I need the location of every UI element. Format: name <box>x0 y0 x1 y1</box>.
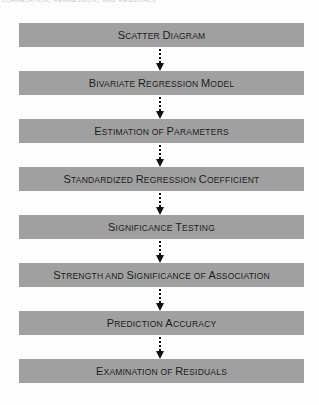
step-label: STANDARDIZED REGRESSION COEFFICIENT <box>63 173 259 185</box>
dotted-down-arrow-icon <box>156 240 164 263</box>
dotted-down-arrow-icon <box>156 144 164 167</box>
step-label: SCATTER DIAGRAM <box>118 29 206 41</box>
step-box-prediction-accuracy: PREDICTION ACCURACY <box>19 311 304 335</box>
step-box-significance-testing: SIGNIFICANCE TESTING <box>19 215 304 239</box>
step-box-bivariate-regression-model: BIVARIATE REGRESSION MODEL <box>19 71 304 95</box>
dotted-down-arrow-icon <box>156 288 164 311</box>
cropped-header-text: correlation, regression, and residuals <box>0 0 319 5</box>
step-label: BIVARIATE REGRESSION MODEL <box>89 77 235 89</box>
step-label: EXAMINATION OF RESIDUALS <box>96 365 227 377</box>
dotted-down-arrow-icon <box>156 96 164 119</box>
diagram-page: correlation, regression, and residuals S… <box>0 0 319 405</box>
step-box-standardized-regression-coefficient: STANDARDIZED REGRESSION COEFFICIENT <box>19 167 304 191</box>
step-label: STRENGTH AND SIGNIFICANCE OF ASSOCIATION <box>53 269 270 281</box>
step-box-scatter-diagram: SCATTER DIAGRAM <box>19 23 304 47</box>
step-label: ESTIMATION OF PARAMETERS <box>94 125 229 137</box>
dotted-down-arrow-icon <box>156 336 164 359</box>
step-box-estimation-of-parameters: ESTIMATION OF PARAMETERS <box>19 119 304 143</box>
step-label: PREDICTION ACCURACY <box>107 317 217 329</box>
step-box-strength-and-significance: STRENGTH AND SIGNIFICANCE OF ASSOCIATION <box>19 263 304 287</box>
step-label: SIGNIFICANCE TESTING <box>108 221 215 233</box>
dotted-down-arrow-icon <box>156 48 164 71</box>
step-box-examination-of-residuals: EXAMINATION OF RESIDUALS <box>19 359 304 383</box>
dotted-down-arrow-icon <box>156 192 164 215</box>
